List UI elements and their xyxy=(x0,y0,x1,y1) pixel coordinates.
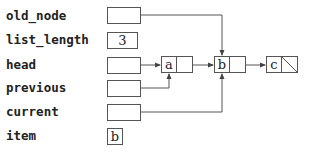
arrow-current-to-b xyxy=(141,74,222,112)
arrow-old-node-to-b xyxy=(141,15,222,55)
arrow-previous-to-a xyxy=(141,74,169,88)
pointer-arrows xyxy=(0,0,319,155)
